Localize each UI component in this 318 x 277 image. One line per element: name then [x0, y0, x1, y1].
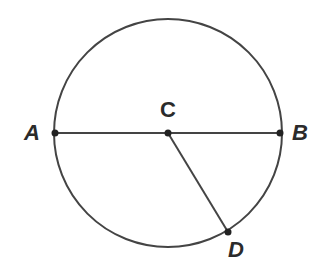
label-a: A: [24, 122, 40, 144]
point-d: [225, 229, 232, 236]
point-b: [277, 130, 284, 137]
circle-diagram: A B C D: [0, 0, 318, 277]
label-b: B: [292, 122, 308, 144]
label-c: C: [160, 99, 176, 121]
diagram-canvas: [0, 0, 318, 277]
radius-cd: [168, 133, 228, 232]
label-d: D: [228, 239, 244, 261]
point-c: [165, 130, 172, 137]
point-a: [52, 130, 59, 137]
